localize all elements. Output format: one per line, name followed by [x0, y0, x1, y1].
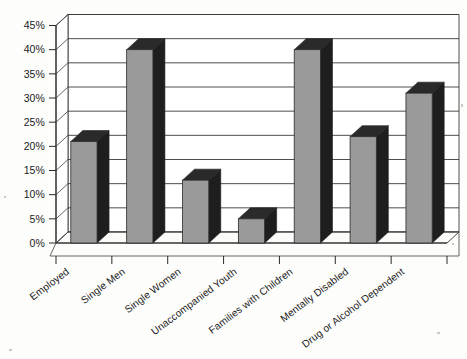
y-axis-tick-label: 15%: [24, 164, 45, 176]
y-axis-tick-label: 25%: [24, 116, 45, 128]
x-axis-ticks: [56, 256, 447, 264]
y-axis-tick-label: 35%: [24, 68, 45, 80]
y-axis-tick-label: 40%: [24, 43, 45, 55]
bar-chart: 0%5%10%15%20%25%30%35%40%45%EmployedSing…: [0, 0, 467, 359]
x-axis-tick-label: Single Women: [123, 266, 183, 315]
bar: [406, 82, 444, 243]
y-axis-tick-label: 20%: [24, 140, 45, 152]
y-axis-tick-label: 0%: [30, 237, 45, 249]
chart-canvas: 0%5%10%15%20%25%30%35%40%45%EmployedSing…: [0, 0, 467, 359]
y-axis-tick-label: 5%: [30, 213, 45, 225]
x-axis-tick-label: Drug or Alcohol Dependent: [300, 266, 406, 350]
y-axis-tick-label: 45%: [24, 19, 45, 31]
bar: [350, 126, 388, 243]
x-axis-tick-label: Employed: [28, 266, 72, 303]
bar: [183, 169, 221, 243]
y-axis: 0%5%10%15%20%25%30%35%40%45%: [24, 19, 56, 249]
bar: [294, 39, 332, 243]
y-axis-tick-label: 10%: [24, 188, 45, 200]
y-axis-tick-label: 30%: [24, 92, 45, 104]
bar: [127, 39, 165, 243]
x-axis-tick-label: Single Men: [79, 266, 127, 306]
plot-left-wall: [56, 15, 68, 244]
x-axis-labels: EmployedSingle MenSingle WomenUnaccompan…: [28, 266, 407, 350]
bar: [71, 131, 109, 244]
